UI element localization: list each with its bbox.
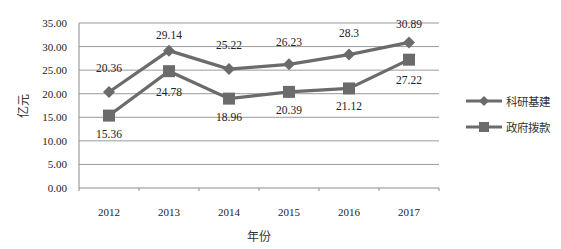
legend-item-research-infrastructure: 科研基建: [466, 88, 550, 114]
diamond-marker: [343, 49, 355, 61]
y-tick-label: 15.00: [42, 111, 67, 123]
y-tick-label: 30.00: [42, 41, 67, 53]
data-label: 25.22: [216, 39, 242, 51]
data-label: 28.3: [339, 27, 359, 39]
data-label: 18.96: [216, 111, 242, 123]
data-label: 29.14: [156, 29, 182, 41]
diamond-marker: [283, 58, 295, 70]
x-tick-label: 2017: [398, 206, 421, 218]
diamond-marker: [223, 63, 235, 75]
square-marker: [403, 54, 415, 66]
x-tick-label: 2012: [98, 206, 120, 218]
y-axis-title: 亿元: [16, 94, 31, 118]
y-tick-label: 25.00: [42, 64, 67, 76]
data-label: 20.39: [276, 104, 302, 116]
x-axis-title: 年份: [247, 230, 271, 244]
data-label: 27.22: [396, 74, 422, 86]
x-tick-label: 2013: [158, 206, 181, 218]
square-marker: [343, 82, 355, 94]
legend-label: 政府拨款: [506, 119, 550, 135]
series-line: [109, 42, 409, 92]
legend-label: 科研基建: [506, 93, 550, 109]
data-label: 26.23: [276, 36, 302, 48]
square-marker: [283, 86, 295, 98]
diamond-marker-icon: [466, 95, 502, 107]
x-tick-label: 2016: [338, 206, 361, 218]
square-marker-icon: [466, 121, 502, 133]
data-label: 21.12: [336, 100, 362, 112]
square-marker: [223, 93, 235, 105]
x-tick-label: 2015: [278, 206, 301, 218]
data-label: 20.36: [96, 62, 122, 74]
y-tick-label: 35.00: [42, 17, 67, 29]
data-label: 30.89: [396, 18, 422, 30]
legend-item-government-funding: 政府拨款: [466, 114, 550, 140]
y-tick-label: 5.00: [48, 158, 68, 170]
data-label: 24.78: [156, 86, 182, 98]
legend: 科研基建 政府拨款: [466, 88, 550, 140]
data-label: 15.36: [96, 128, 122, 140]
y-tick-label: 0.00: [48, 182, 68, 194]
y-tick-label: 20.00: [42, 88, 67, 100]
square-marker: [163, 65, 175, 77]
x-tick-label: 2014: [218, 206, 241, 218]
square-marker: [103, 110, 115, 122]
y-tick-label: 10.00: [42, 135, 67, 147]
